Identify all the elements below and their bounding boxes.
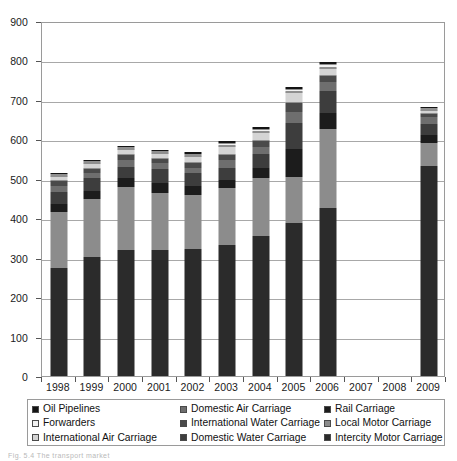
x-axis-label-2005: 2005 [282,381,306,393]
x-axis-label-2006: 2006 [315,381,339,393]
x-axis-tick [41,377,42,382]
x-axis-tick [75,377,76,382]
bar-segment [320,129,337,208]
legend-item[interactable]: Intercity Motor Carriage [324,433,443,443]
bar-segment [219,146,236,155]
bar-group-2009[interactable] [412,23,446,376]
y-axis-tick [36,298,41,299]
bar-segment [421,166,438,376]
bar-segment [421,124,438,135]
legend-item[interactable]: Forwarders [32,418,180,428]
bar-segment [320,68,337,77]
legend-item[interactable]: Domestic Water Carriage [180,433,324,443]
bar-segment [84,178,101,191]
bar-group-2005[interactable] [278,23,312,376]
bar-group-1998[interactable] [42,23,76,376]
bar-segment [219,160,236,167]
bar-segment [252,178,269,236]
figure-caption: Fig. 5.4 The transport market [8,452,218,460]
stacked-bar[interactable] [185,152,202,376]
bar-segment [185,186,202,195]
legend-item[interactable]: International Air Carriage [32,433,180,443]
x-axis-tick [445,377,446,382]
x-axis-tick [378,377,379,382]
legend-label: International Air Carriage [43,433,157,443]
bar-segment [286,112,303,123]
stacked-bar[interactable] [50,173,67,376]
bar-segment [151,250,168,376]
bar-group-2001[interactable] [143,23,177,376]
legend-swatch-icon [324,420,331,427]
x-axis-label-2001: 2001 [147,381,171,393]
bar-group-2006[interactable] [311,23,345,376]
bar-segment [118,178,135,187]
bars-layer [42,23,444,376]
bar-segment [320,208,337,376]
bar-segment [421,117,438,124]
stacked-bar[interactable] [118,146,135,376]
x-axis-label-2009: 2009 [416,381,440,393]
bar-group-2003[interactable] [210,23,244,376]
legend-item[interactable]: Domestic Air Carriage [180,404,324,414]
stacked-bar[interactable] [151,150,168,376]
bar-segment [252,154,269,169]
bar-segment [84,257,101,376]
stacked-bar[interactable] [252,127,269,376]
legend-swatch-icon [32,434,39,441]
x-axis-label-2008: 2008 [383,381,407,393]
legend-item[interactable]: Rail Carriage [324,404,443,414]
bar-segment [219,168,236,181]
stacked-bar[interactable] [421,107,438,376]
legend-swatch-icon [32,406,39,413]
legend-label: Rail Carriage [335,404,395,414]
legend-item[interactable]: Oil Pipelines [32,404,180,414]
legend-item[interactable]: Local Motor Carriage [324,418,443,428]
legend-item[interactable]: International Water Carriage [180,418,324,428]
y-axis-label: 300 [0,253,28,265]
stacked-bar[interactable] [320,62,337,376]
bar-segment [151,169,168,183]
bar-segment [151,183,168,193]
bar-group-2004[interactable] [244,23,278,376]
y-axis-label: 900 [0,16,28,28]
bar-segment [118,187,135,250]
bar-segment [252,168,269,177]
y-axis-label: 100 [0,332,28,344]
bar-segment [50,212,67,268]
y-axis-label: 200 [0,292,28,304]
bar-group-1999[interactable] [76,23,110,376]
bar-segment [84,191,101,199]
bar-segment [286,103,303,112]
bar-segment [286,92,303,103]
y-axis-tick [36,140,41,141]
legend-swatch-icon [180,406,187,413]
stacked-bar[interactable] [219,141,236,376]
bar-group-2002[interactable] [177,23,211,376]
legend-swatch-icon [180,434,187,441]
bar-group-2000[interactable] [109,23,143,376]
x-axis-tick [209,377,210,382]
stacked-bar[interactable] [84,160,101,376]
x-axis-tick [142,377,143,382]
bar-segment [252,141,269,148]
y-axis-tick [36,101,41,102]
stacked-bar[interactable] [286,87,303,376]
bar-segment [185,249,202,376]
legend-label: Domestic Air Carriage [191,404,291,414]
legend-swatch-icon [324,406,331,413]
bar-segment [320,113,337,129]
bar-group-2007[interactable] [345,23,379,376]
bar-segment [50,204,67,213]
legend-swatch-icon [180,420,187,427]
bar-segment [50,268,67,376]
bar-segment [151,193,168,250]
y-axis-label: 700 [0,95,28,107]
x-axis-tick [176,377,177,382]
legend-swatch-icon [324,434,331,441]
y-axis-tick [36,338,41,339]
bar-segment [84,199,101,257]
x-axis-tick [108,377,109,382]
bar-group-2008[interactable] [379,23,413,376]
bar-segment [252,132,269,140]
legend-swatch-icon [32,420,39,427]
